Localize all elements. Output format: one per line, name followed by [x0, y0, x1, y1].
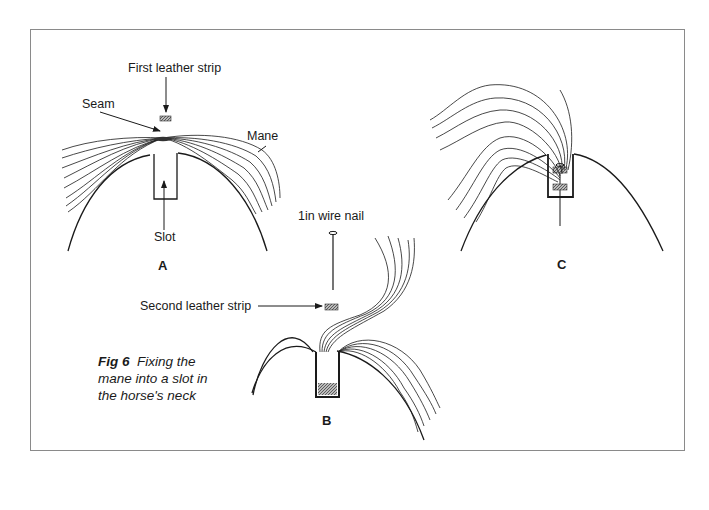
panel-c-drawing — [430, 85, 663, 251]
figure-caption: Fig 6 Fixing the mane into a slot in the… — [98, 353, 218, 404]
illustration — [0, 0, 709, 510]
label-second-leather-strip: Second leather strip — [140, 300, 251, 313]
panel-b-drawing — [250, 231, 440, 440]
panel-letter-a: A — [158, 259, 167, 272]
label-seam: Seam — [82, 98, 115, 111]
label-wire-nail: 1in wire nail — [298, 210, 364, 223]
panel-letter-b: B — [322, 414, 331, 427]
panel-letter-c: C — [557, 258, 566, 271]
caption-number: Fig 6 — [98, 354, 130, 369]
label-first-leather-strip: First leather strip — [128, 62, 221, 75]
label-mane: Mane — [247, 130, 278, 143]
label-slot: Slot — [154, 231, 176, 244]
